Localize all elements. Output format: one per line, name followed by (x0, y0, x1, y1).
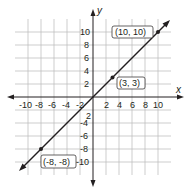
y-axis-up-arrow-icon (91, 9, 96, 16)
x-axis-right-arrow-icon (177, 95, 184, 100)
x-tick: -6 (48, 100, 56, 110)
y-tick: -8 (80, 144, 88, 154)
y-tick: 4 (84, 66, 89, 76)
x-tick: 8 (143, 100, 148, 110)
x-axis-left-arrow-icon (7, 95, 14, 100)
x-tick: -4 (62, 100, 70, 110)
x-tick: 2 (104, 100, 109, 110)
x-tick: 6 (130, 100, 135, 110)
y-tick: 10 (80, 27, 90, 37)
x-tick: 4 (117, 100, 122, 110)
y-axis-down-arrow-icon (91, 180, 96, 187)
x-tick: -8 (35, 100, 43, 110)
x-tick-labels: -10 -8 -6 -4 -2 2 4 6 8 10 (19, 100, 163, 110)
y-tick: 2 (84, 79, 89, 89)
coordinate-plane: x y -10 -8 -6 -4 -2 2 4 6 8 10 10 8 6 4 … (0, 0, 187, 195)
axes (10, 12, 181, 184)
data-line (22, 22, 168, 168)
x-axis-label: x (175, 84, 182, 95)
point-label-neg8-neg8: (-8, -8) (43, 157, 70, 167)
x-tick: -10 (19, 100, 32, 110)
y-tick: -4 (80, 118, 88, 128)
point-3-3 (111, 76, 115, 80)
y-tick: 6 (84, 53, 89, 63)
y-tick: -6 (80, 131, 88, 141)
point-label-3-3: (3, 3) (119, 78, 140, 88)
y-axis-label: y (96, 5, 103, 16)
point-neg8-neg8 (39, 147, 43, 151)
point-10-10 (156, 30, 160, 34)
y-tick: -10 (76, 157, 89, 167)
y-tick: 8 (84, 40, 89, 50)
point-label-10-10: (10, 10) (115, 27, 146, 37)
x-tick: 10 (153, 100, 163, 110)
x-tick: -2 (76, 100, 84, 110)
